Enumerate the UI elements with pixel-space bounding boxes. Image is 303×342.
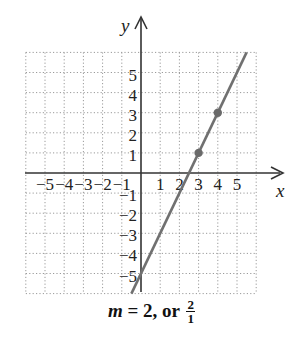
slope-fraction: 21 [186, 299, 195, 324]
y-tick-label: −1 [119, 186, 137, 205]
data-point [194, 149, 202, 157]
x-axis-label: x [275, 180, 285, 201]
y-axis-label: y [119, 15, 130, 36]
tick-labels: −5−4−3−2−11234554321−1−2−3−4−5 [36, 66, 241, 286]
y-tick-label: 5 [129, 66, 138, 85]
y-tick-label: −5 [119, 267, 137, 286]
x-tick-label: 1 [156, 175, 165, 194]
x-tick-label: −3 [74, 175, 92, 194]
coordinate-plane: x y −5−4−3−2−11234554321−1−2−3−4−5 [0, 0, 303, 342]
x-tick-label: −5 [36, 175, 54, 194]
y-tick-label: −2 [119, 206, 137, 225]
slope-value: = 2, or [123, 300, 185, 321]
slope-caption: m = 2, or 21 [0, 300, 303, 325]
slope-variable: m [108, 300, 123, 321]
x-tick-label: 5 [233, 175, 242, 194]
y-tick-label: 4 [129, 86, 138, 105]
data-point [214, 109, 222, 117]
x-tick-label: 4 [214, 175, 223, 194]
y-tick-label: 1 [129, 146, 138, 165]
x-tick-label: 3 [194, 175, 203, 194]
y-tick-label: −4 [119, 246, 138, 265]
fraction-denominator: 1 [186, 312, 195, 324]
y-tick-label: 2 [129, 126, 138, 145]
y-tick-label: −3 [119, 226, 137, 245]
x-tick-label: −4 [55, 175, 74, 194]
y-tick-label: 3 [129, 106, 138, 125]
x-tick-label: −2 [94, 175, 112, 194]
